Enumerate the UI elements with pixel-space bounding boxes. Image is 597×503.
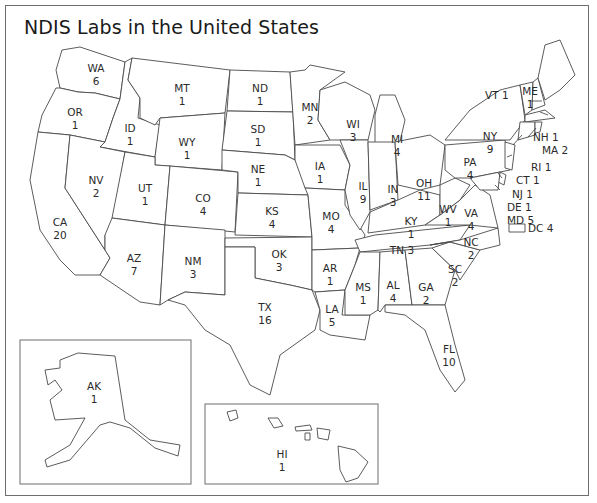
label-mi: MI4 <box>391 133 403 159</box>
state-hi-kauai[interactable] <box>227 410 238 421</box>
label-sc: SC2 <box>448 263 462 289</box>
label-ma: MA 2 <box>542 144 568 157</box>
label-ca: CA20 <box>53 216 68 242</box>
label-fl: FL10 <box>442 343 455 369</box>
label-ri: RI 1 <box>531 161 551 174</box>
label-ny: NY9 <box>483 130 497 156</box>
label-ut: UT1 <box>138 182 152 208</box>
label-ks: KS4 <box>265 205 279 231</box>
label-id: ID1 <box>124 122 135 148</box>
state-me[interactable] <box>538 40 575 100</box>
label-nv: NV2 <box>88 174 103 200</box>
label-va: VA4 <box>464 207 478 233</box>
label-tn: TN 3 <box>390 244 414 257</box>
label-in: IN3 <box>388 183 399 209</box>
label-sd: SD1 <box>251 123 266 149</box>
label-ga: GA2 <box>418 281 433 307</box>
label-wv: WV1 <box>439 203 457 229</box>
label-mt: MT1 <box>174 82 189 108</box>
label-oh: OH11 <box>416 177 432 203</box>
state-hi-big-island[interactable] <box>338 446 368 482</box>
label-mn: MN2 <box>302 101 319 127</box>
label-il: IL9 <box>359 180 368 206</box>
label-wi: WI3 <box>346 118 359 144</box>
label-ms: MS1 <box>355 281 371 307</box>
leader-ct <box>513 135 522 145</box>
label-tx: TX16 <box>258 301 272 327</box>
label-wa: WA6 <box>88 62 105 88</box>
state-hi-maui[interactable] <box>317 428 330 440</box>
label-ky: KY1 <box>405 215 418 241</box>
label-nd: ND1 <box>252 82 268 108</box>
label-ne: NE1 <box>251 163 266 189</box>
state-hi-molokai[interactable] <box>295 425 312 431</box>
label-de: DE 1 <box>507 201 532 214</box>
state-hi-oahu[interactable] <box>268 418 283 428</box>
label-mo: MO4 <box>322 210 339 236</box>
label-hi: HI1 <box>277 448 288 474</box>
label-co: CO4 <box>195 192 211 218</box>
state-hi-lanai[interactable] <box>305 433 310 440</box>
state-ak[interactable] <box>45 353 180 467</box>
label-ok: OK3 <box>271 248 286 274</box>
label-az: AZ7 <box>127 252 141 278</box>
label-nc: NC2 <box>463 236 478 262</box>
label-nm: NM3 <box>185 255 202 281</box>
label-al: AL4 <box>386 279 399 305</box>
label-or: OR1 <box>67 106 83 132</box>
label-ia: IA1 <box>315 160 325 186</box>
label-ct: CT 1 <box>516 174 540 187</box>
label-wy: WY1 <box>179 136 196 162</box>
label-la: LA5 <box>325 303 338 329</box>
label-vt: VT 1 <box>485 89 509 102</box>
label-nj: NJ 1 <box>512 188 533 201</box>
label-ar: AR1 <box>323 262 337 288</box>
label-dc: DC 4 <box>528 222 553 235</box>
label-nh: NH 1 <box>533 131 559 144</box>
label-pa: PA4 <box>464 156 477 182</box>
label-me: ME1 <box>522 85 538 111</box>
label-ak: AK1 <box>87 380 101 406</box>
